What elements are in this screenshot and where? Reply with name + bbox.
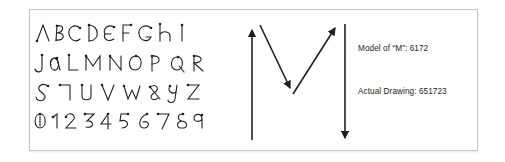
letter-m-stroke-diagram — [235, 12, 355, 150]
alphabet-row-digits: 0123456789 — [32, 106, 232, 136]
model-code-label: Model of “M”: 6172 — [358, 44, 428, 54]
actual-drawing-code-label: Actual Drawing: 651723 — [358, 87, 447, 97]
alphabet-row-j-r: JKLMNOPQR — [32, 48, 232, 78]
figure-frame: ABCDEFGHI — [29, 9, 478, 151]
m-stroke-2-inner-downstroke — [260, 25, 290, 88]
alphabet-chart: ABCDEFGHI — [32, 12, 232, 142]
m-stroke-3-inner-upstroke — [293, 28, 335, 94]
alphabet-row-a-i: ABCDEFGHI — [32, 18, 232, 48]
alphabet-row-s-z: STUVWXYZ — [32, 77, 232, 107]
